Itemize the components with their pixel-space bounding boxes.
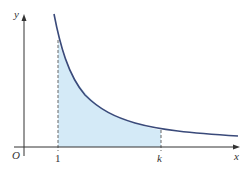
graph-canvas: [0, 0, 250, 173]
y-axis-label: y: [14, 9, 19, 20]
x-axis-arrow-icon: [233, 145, 240, 150]
tick-label-1: 1: [55, 153, 61, 164]
origin-label: O: [12, 150, 20, 161]
y-axis-arrow-icon: [22, 14, 27, 21]
x-axis-label: x: [234, 151, 239, 162]
shaded-area: [58, 40, 161, 147]
tick-label-k: k: [157, 153, 162, 164]
